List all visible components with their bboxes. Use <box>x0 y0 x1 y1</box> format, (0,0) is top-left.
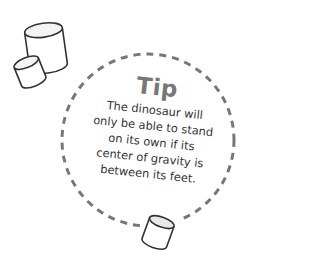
tip-callout: Tip The dinosaur will only be able to st… <box>73 66 233 189</box>
tip-body: The dinosaur will only be able to stand … <box>73 94 231 189</box>
marshmallow-bottom-icon <box>136 208 184 255</box>
